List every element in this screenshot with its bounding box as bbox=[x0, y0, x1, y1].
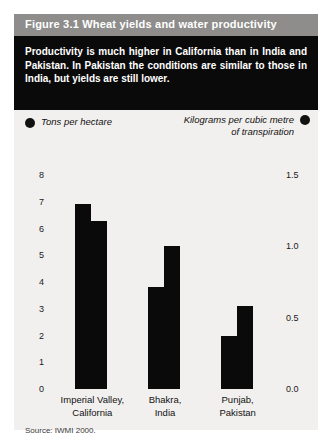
bar-group bbox=[221, 148, 255, 392]
bar bbox=[91, 221, 107, 389]
category-label-line: California bbox=[72, 407, 112, 418]
right-axis-tick: 1.5 bbox=[286, 170, 308, 180]
bar bbox=[148, 287, 164, 389]
right-axis-tick: 1.0 bbox=[286, 241, 308, 251]
summary-text: Productivity is much higher in Californi… bbox=[25, 45, 307, 86]
category-label-line: Punjab, bbox=[222, 394, 254, 405]
bar bbox=[221, 336, 237, 390]
category-label: Punjab,Pakistan bbox=[190, 394, 286, 419]
right-axis-tick: 0.5 bbox=[286, 313, 308, 323]
figure-title: Figure 3.1 Wheat yields and water produc… bbox=[25, 18, 277, 30]
bar bbox=[164, 246, 180, 389]
bar bbox=[75, 204, 91, 389]
bar bbox=[237, 306, 253, 389]
chart-plot-area: 012345678 0.00.51.01.5 bbox=[14, 148, 318, 392]
category-label-line: Bhakra, bbox=[149, 394, 182, 405]
left-axis-tick: 8 bbox=[28, 170, 44, 180]
legend-label-kilograms-line2: of transpiration bbox=[231, 126, 294, 137]
figure-container: Figure 3.1 Wheat yields and water produc… bbox=[14, 14, 318, 430]
left-axis-tick: 1 bbox=[28, 357, 44, 367]
left-axis-tick: 3 bbox=[28, 304, 44, 314]
bar-group bbox=[75, 148, 109, 392]
category-labels: Imperial Valley,CaliforniaBhakra,IndiaPu… bbox=[56, 394, 274, 426]
left-axis-tick: 5 bbox=[28, 250, 44, 260]
legend-item-kilograms-per-cubic-metre: Kilograms per cubic metre of transpirati… bbox=[184, 114, 310, 138]
left-axis-tick: 7 bbox=[28, 197, 44, 207]
legend-label-tons-per-hectare: Tons per hectare bbox=[41, 116, 112, 128]
source-note: Source: IWMI 2000. bbox=[25, 426, 96, 435]
category-label-line: Imperial Valley, bbox=[61, 394, 125, 405]
legend-label-kilograms-line1: Kilograms per cubic metre bbox=[184, 114, 294, 125]
legend-marker-circle-icon bbox=[25, 118, 35, 128]
figure-header-bar: Figure 3.1 Wheat yields and water produc… bbox=[14, 14, 318, 36]
left-axis-tick: 6 bbox=[28, 224, 44, 234]
bar-groups bbox=[56, 148, 274, 392]
legend-label-kilograms: Kilograms per cubic metre of transpirati… bbox=[184, 114, 294, 138]
left-axis-tick: 4 bbox=[28, 277, 44, 287]
chart-legend: Tons per hectare Kilograms per cubic met… bbox=[14, 114, 318, 148]
legend-item-tons-per-hectare: Tons per hectare bbox=[25, 116, 112, 128]
category-label-line: India bbox=[155, 407, 176, 418]
category-label-line: Pakistan bbox=[219, 407, 255, 418]
bar-group bbox=[148, 148, 182, 392]
right-axis-tick: 0.0 bbox=[286, 384, 308, 394]
left-axis-tick: 2 bbox=[28, 331, 44, 341]
left-axis-tick: 0 bbox=[28, 384, 44, 394]
legend-marker-circle-icon bbox=[300, 115, 310, 125]
summary-panel: Productivity is much higher in Californi… bbox=[14, 36, 318, 110]
